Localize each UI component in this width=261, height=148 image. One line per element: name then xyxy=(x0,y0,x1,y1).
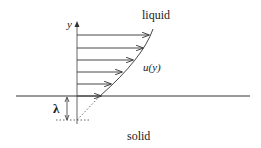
y-axis-arrowhead-icon xyxy=(75,21,80,27)
velocity-arrows xyxy=(77,35,149,96)
slip-length-label: λ xyxy=(53,101,60,116)
liquid-label: liquid xyxy=(142,8,170,22)
slip-length-diagram: y liquid u(y) λ solid xyxy=(0,0,261,148)
y-axis-label: y xyxy=(66,18,72,30)
extrapolation-dashed-line xyxy=(77,96,100,120)
solid-label: solid xyxy=(127,129,150,143)
velocity-profile-label: u(y) xyxy=(143,61,161,74)
